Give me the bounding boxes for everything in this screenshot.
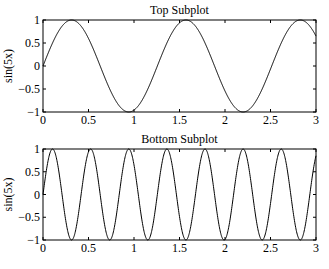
axes-frame [43, 20, 316, 112]
y-tick-label: 1 [34, 13, 40, 27]
x-tick-label: 3 [313, 113, 319, 127]
y-axis-label: sin(5x) [1, 178, 15, 212]
x-tick-label: 0 [40, 113, 46, 127]
x-tick-label: 0 [40, 241, 46, 255]
x-tick-label: 1.5 [172, 241, 187, 255]
y-tick-label: −1 [27, 105, 40, 119]
x-tick-label: 2.5 [263, 241, 278, 255]
subplot-title: Top Subplot [150, 3, 210, 17]
y-tick-label: 0 [34, 59, 40, 73]
y-tick-label: 0 [34, 188, 40, 202]
sine-curve [43, 20, 316, 112]
y-tick-label: −0.5 [18, 82, 40, 96]
subplot-title: Bottom Subplot [141, 132, 218, 146]
sine-curve [43, 149, 316, 240]
x-tick-label: 1 [131, 241, 137, 255]
x-tick-label: 1.5 [172, 113, 187, 127]
subplot-bottom: 00.511.522.53−1−0.500.51Bottom Subplotsi… [1, 132, 319, 255]
x-tick-label: 2 [222, 241, 228, 255]
x-tick-label: 0.5 [81, 241, 96, 255]
y-tick-label: −1 [27, 233, 40, 247]
figure: 00.511.522.53−1−0.500.51Top Subplotsin(5… [0, 0, 329, 269]
axes-frame [43, 149, 316, 240]
x-tick-label: 2 [222, 113, 228, 127]
x-tick-label: 2.5 [263, 113, 278, 127]
x-tick-label: 0.5 [81, 113, 96, 127]
y-tick-label: 1 [34, 142, 40, 156]
y-tick-label: 0.5 [25, 36, 40, 50]
x-tick-label: 1 [131, 113, 137, 127]
subplot-top: 00.511.522.53−1−0.500.51Top Subplotsin(5… [1, 3, 319, 127]
y-tick-label: 0.5 [25, 165, 40, 179]
y-tick-label: −0.5 [18, 210, 40, 224]
y-axis-label: sin(5x) [1, 49, 15, 83]
x-tick-label: 3 [313, 241, 319, 255]
